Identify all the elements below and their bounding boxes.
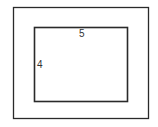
width-label: 5 bbox=[79, 28, 85, 39]
diagram-canvas: 5 4 bbox=[0, 0, 158, 127]
height-label: 4 bbox=[37, 59, 43, 70]
